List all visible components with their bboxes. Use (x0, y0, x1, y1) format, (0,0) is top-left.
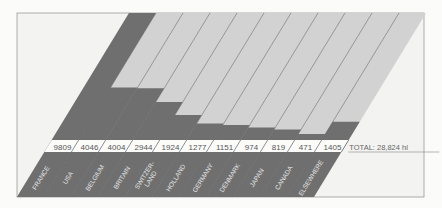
value-label: 2944 (135, 143, 153, 152)
value-label: 1277 (189, 143, 207, 152)
value-label: 819 (272, 143, 286, 152)
value-label: 1924 (162, 143, 180, 152)
total-label: TOTAL: 28,824 hl (349, 143, 408, 152)
value-label: 9809 (54, 143, 72, 152)
value-label: 471 (299, 143, 313, 152)
value-label: 1405 (324, 143, 342, 152)
skewed-bar-chart: 9809404640042944192412771151974819471140… (0, 0, 442, 208)
value-label: 1151 (216, 143, 234, 152)
value-label: 4004 (108, 143, 126, 152)
value-label: 974 (245, 143, 259, 152)
value-label: 4046 (81, 143, 99, 152)
